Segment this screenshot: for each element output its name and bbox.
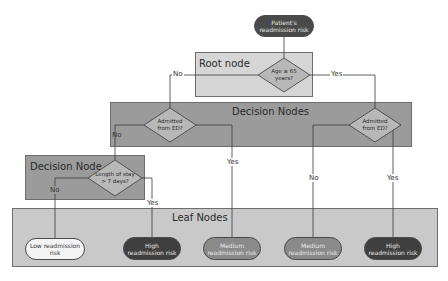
leaf-high-readmission-risk-2: High readmission risk — [364, 237, 422, 260]
leaf-high-readmission-risk-1: High readmission risk — [123, 237, 181, 260]
root-question: Age ≥ 65 years? — [262, 70, 306, 80]
edge-label-left-ed-yes: Yes — [227, 158, 238, 166]
edge-label-right-ed-yes: Yes — [387, 174, 398, 182]
los-question: Length of stay > 7 days? — [94, 171, 136, 185]
patient-readmission-risk-node: Patient's readmission risk — [254, 15, 314, 37]
right-ed-question: Admitted from ED? — [358, 118, 392, 132]
left-ed-question: Admitted from ED? — [153, 118, 187, 132]
edge-label-left-ed-no: No — [112, 131, 122, 139]
leaf-medium-readmission-risk-2: Medium readmission risk — [284, 237, 342, 260]
edge-label-los-yes: Yes — [147, 199, 158, 207]
edge-label-los-no: No — [50, 186, 60, 194]
leaf-medium-readmission-risk-1: Medium readmission risk — [203, 237, 261, 260]
edge-label-root-yes: Yes — [330, 70, 343, 78]
leaf-low-readmission-risk: Low readmission risk — [25, 238, 85, 260]
edge-label-root-no: No — [172, 70, 184, 78]
edge-label-right-ed-no: No — [309, 174, 319, 182]
